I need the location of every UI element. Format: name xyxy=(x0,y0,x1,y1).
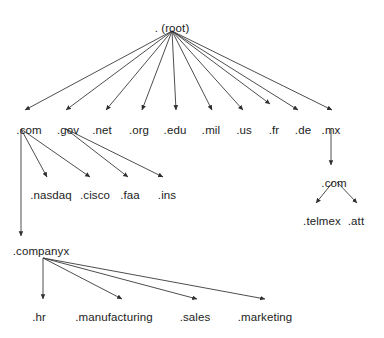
edge-root-to-com xyxy=(25,31,172,110)
node-label-de: .de xyxy=(295,124,311,137)
edge-root-to-mil xyxy=(172,31,212,110)
edge-root-to-us xyxy=(172,31,243,110)
node-label-net: .net xyxy=(92,124,112,137)
node-label-telmex: .telmex xyxy=(303,215,341,228)
node-label-mx-com: .com xyxy=(321,177,346,190)
edge-root-to-mx xyxy=(172,31,332,110)
node-label-faa: .faa xyxy=(120,189,140,202)
edge-companyx-to-marketing xyxy=(43,258,265,299)
edge-root-to-gov xyxy=(66,31,172,110)
edge-root-to-fr xyxy=(172,31,270,104)
node-label-att: .att xyxy=(348,215,364,228)
edge-companyx-to-sales xyxy=(43,258,197,299)
edge-root-to-de xyxy=(172,31,298,110)
node-label-nasdaq: .nasdaq xyxy=(30,189,72,202)
node-label-sales: .sales xyxy=(180,311,211,324)
node-label-companyx: .companyx xyxy=(13,245,70,258)
edge-layer xyxy=(0,0,384,338)
node-label-root: . (root) xyxy=(155,22,190,35)
dns-hierarchy-diagram: . (root).com.gov.net.org.edu.mil.us.fr.d… xyxy=(0,0,384,338)
node-label-marketing: .marketing xyxy=(238,311,293,324)
edge-root-to-net xyxy=(106,31,172,110)
node-label-com: .com xyxy=(16,124,41,137)
edge-root-to-edu xyxy=(172,31,176,110)
node-label-edu: .edu xyxy=(164,124,187,137)
node-label-gov: .gov xyxy=(57,124,79,137)
node-label-us: .us xyxy=(236,124,252,137)
node-label-hr: .hr xyxy=(32,311,46,324)
node-label-manufacturing: .manufacturing xyxy=(75,311,152,324)
node-label-fr: .fr xyxy=(269,124,280,137)
tree-edges xyxy=(21,31,357,299)
node-label-ins: .ins xyxy=(158,189,176,202)
edge-companyx-to-manufacturing xyxy=(43,258,122,299)
node-label-mx: .mx xyxy=(322,124,341,137)
node-label-cisco: .cisco xyxy=(80,189,110,202)
edge-root-to-org xyxy=(142,31,172,110)
node-label-org: .org xyxy=(129,124,149,137)
node-label-mil: .mil xyxy=(202,124,220,137)
